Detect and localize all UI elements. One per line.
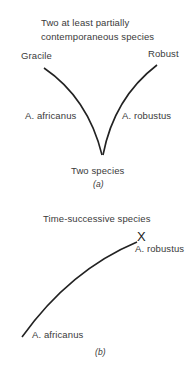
panel-b-caption: (b): [95, 348, 106, 357]
successive-lineage-line: [22, 242, 137, 337]
a-africanus-start-label: A. africanus: [32, 330, 83, 340]
robust-label: Robust: [148, 49, 179, 59]
extinction-x-marker: X: [137, 230, 146, 243]
panel-a-caption: (a): [93, 180, 104, 189]
a-robustus-end-label: A. robustus: [135, 244, 184, 254]
panel-a-title-line2: contemporaneous species: [41, 32, 154, 42]
a-robustus-branch-label: A. robustus: [122, 111, 171, 121]
panel-a-title-line1: Two at least partially: [41, 18, 129, 28]
gracile-label: Gracile: [21, 51, 52, 61]
two-species-label: Two species: [71, 166, 124, 176]
panel-b-title: Time-successive species: [43, 214, 151, 224]
a-africanus-branch-label: A. africanus: [25, 111, 76, 121]
